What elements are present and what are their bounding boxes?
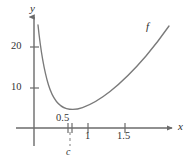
x-tick-label-1: 1 (85, 131, 90, 142)
y-axis-label: y (30, 3, 35, 14)
y-tick-label-20: 20 (11, 41, 22, 52)
y-tick-label-10: 10 (11, 82, 22, 93)
function-curve-f (38, 25, 169, 109)
critical-point-label-c: c (66, 147, 70, 157)
x-tick-label-0point5: 0.5 (56, 113, 69, 124)
curve-label-f: f (146, 21, 149, 32)
plot-canvas (0, 0, 193, 166)
x-tick-label-1point5: 1.5 (117, 131, 130, 142)
function-graph-figure: y x f 20 10 0.5 1 1.5 c (0, 0, 193, 166)
x-axis-label: x (178, 121, 183, 132)
